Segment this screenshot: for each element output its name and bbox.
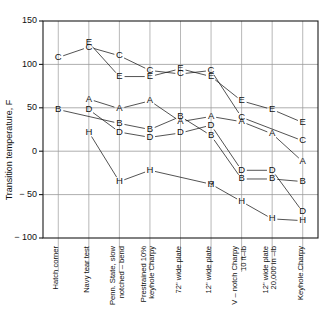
point-H-cat-6: H [238,195,245,206]
point-E-cat-1: E [86,36,92,47]
category-lines [58,21,302,272]
point-D-cat-2: D [116,126,123,137]
point-B-cat-4: B [177,110,183,121]
series-B-segment-4 [214,140,239,175]
point-A-cat-3: A [147,94,154,105]
y-tick-label-100: 100 [22,59,37,69]
category-labels: Hatch cornerNavy tear testPenn. State, s… [51,245,304,305]
y-tick-label--100: − 100 [14,232,37,242]
series-H-segment-1 [124,172,145,180]
point-D-cat-7: D [269,164,276,175]
series-H-segment-5 [277,219,297,220]
category-label-4-line-0: 72" wide plate [174,246,183,293]
series-E-segment-6 [277,112,298,121]
y-tick-label-50: 50 [27,102,37,112]
point-B-cat-8: B [300,175,306,186]
point-H-cat-3: H [147,164,154,175]
point-H-cat-8: H [299,214,306,225]
category-label-5-line-0: 12" wide plate [204,246,213,293]
point-B-cat-5: B [208,129,214,140]
series-A-segment-5 [246,124,267,132]
series-E-segment-5 [247,102,268,108]
point-D-cat-1: D [85,103,92,114]
series-A-segment-3 [186,117,206,120]
point-A-cat-7: A [269,127,276,138]
series-C-segment-5 [214,75,239,113]
category-label-1-line-0: Navy tear test [82,245,91,293]
point-C-cat-2: C [116,49,123,60]
point-D-cat-5: D [208,119,215,130]
point-D-cat-4: D [177,126,184,137]
point-A-cat-8: A [300,155,307,166]
series-C-segment-0 [63,49,84,56]
y-tick-label-0: 0 [32,146,37,156]
category-label-6-line-1: 10 ft–lb [239,246,248,271]
series-A-segment-0 [94,101,115,107]
transition-temperature-chart: 150100500− 50− 100 AAAAAAAABBBBBBBBCCCCC… [0,0,335,315]
y-tick-label-150: 150 [22,15,37,25]
series-A-segment-2 [154,104,176,119]
series-E-segment-0 [92,47,116,73]
series-H-segment-4 [246,204,268,216]
y-tick-label--50: − 50 [19,189,37,199]
series-C-segment-2 [124,58,145,68]
category-label-0-line-0: Hatch corner [51,246,60,290]
series-H-segment-3 [216,187,238,199]
point-E-cat-5: E [208,70,214,81]
annotation-0: ? [208,178,213,189]
point-H-cat-7: H [269,212,276,223]
series-A-segment-4 [216,117,236,120]
annotations: ? [208,178,213,189]
series-D-segment-2 [155,134,175,137]
series-E-segment-2 [155,70,175,75]
point-E-cat-4: E [177,62,183,73]
point-A-cat-2: A [116,102,123,113]
category-label-2-line-1: notched – bend [117,246,126,298]
series-D-segment-4 [214,129,239,166]
series-B-segment-2 [155,119,176,128]
series-A-segment-1 [124,102,144,107]
series-A-segment-6 [276,137,299,158]
point-E-cat-8: E [300,116,306,127]
chart-container: 150100500− 50− 100 AAAAAAAABBBBBBBBCCCCC… [0,0,335,315]
point-C-cat-0: C [55,51,62,62]
series-D-segment-0 [93,113,115,129]
point-E-cat-7: E [269,103,275,114]
series-H-segment-0 [92,137,117,178]
point-D-cat-6: D [238,164,245,175]
y-axis-title: Transition temperature, F [4,99,14,200]
point-C-cat-8: C [299,134,306,145]
point-H-cat-2: H [116,175,123,186]
point-D-cat-3: D [147,131,154,142]
point-H-cat-1: H [85,126,92,137]
series-D-segment-1 [125,133,145,136]
series-D-segment-6 [275,174,299,207]
y-axis-ticks: 150100500− 50− 100 [14,15,43,242]
point-E-cat-3: E [147,70,153,81]
category-label-8-line-0: Keyhole Charpy [296,246,305,300]
series-E-segment-4 [215,80,237,98]
series-E-segment-3 [186,70,206,75]
point-E-cat-2: E [116,70,122,81]
series-B-segment-1 [124,124,144,128]
point-A-cat-1: A [86,93,93,104]
point-B-cat-0: B [55,103,61,114]
category-label-3-line-1: keyhole Charpy [147,246,156,299]
point-E-cat-6: E [238,94,244,105]
point-C-cat-6: C [238,111,245,122]
category-label-7-line-1: 20,000 in –lb [269,246,278,290]
